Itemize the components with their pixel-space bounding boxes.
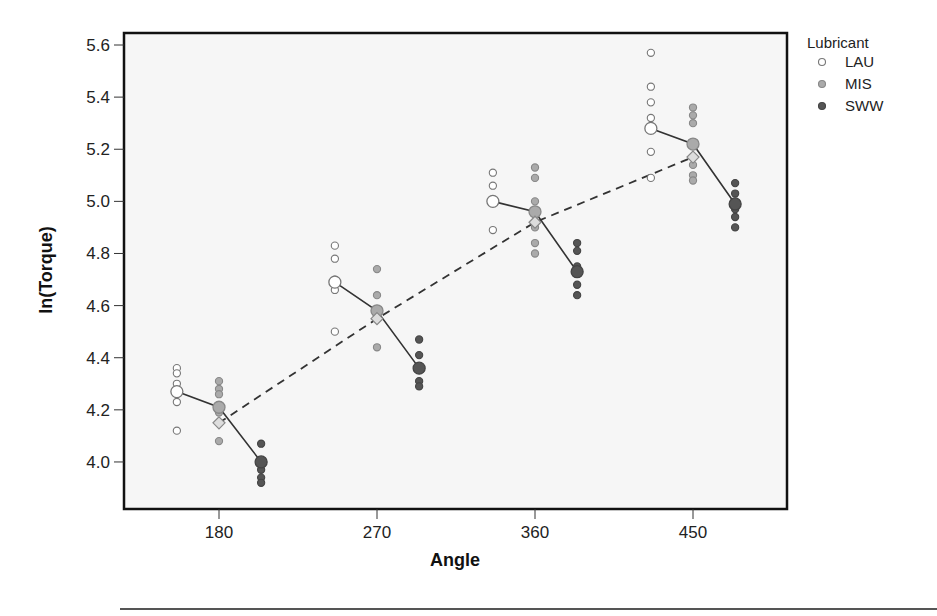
chart: 4.04.24.44.64.85.05.25.45.6 180270360450… [0, 0, 937, 616]
point-lau [173, 427, 180, 434]
point-sww [574, 239, 581, 246]
y-tick-label: 5.0 [86, 192, 110, 211]
point-sww [416, 336, 423, 343]
y-tick-label: 4.6 [86, 297, 110, 316]
mean-point-sww [413, 362, 425, 374]
mean-point-mis [213, 401, 225, 413]
point-mis [215, 438, 222, 445]
point-mis [531, 198, 538, 205]
mean-point-lau [645, 122, 657, 134]
x-tick-label: 450 [679, 523, 707, 542]
point-mis [531, 174, 538, 181]
point-lau [647, 83, 654, 90]
point-lau [489, 169, 496, 176]
legend-marker-lau [819, 59, 826, 66]
point-sww [574, 281, 581, 288]
x-axis: 180270360450 [205, 509, 707, 542]
point-lau [647, 49, 654, 56]
mean-point-sww [571, 266, 583, 278]
mean-point-sww [255, 456, 267, 468]
point-sww [416, 383, 423, 390]
mean-point-mis [687, 138, 699, 150]
point-sww [732, 213, 739, 220]
point-lau [331, 328, 338, 335]
point-mis [373, 344, 380, 351]
point-mis [531, 239, 538, 246]
point-lau [489, 226, 496, 233]
point-lau [647, 114, 654, 121]
y-tick-label: 5.6 [86, 36, 110, 55]
point-sww [732, 180, 739, 187]
point-lau [647, 174, 654, 181]
mean-point-sww [729, 198, 741, 210]
legend-label-sww: SWW [845, 97, 884, 114]
y-axis: 4.04.24.44.64.85.05.25.45.6 [86, 36, 124, 472]
point-mis [689, 177, 696, 184]
point-mis [215, 378, 222, 385]
point-lau [647, 148, 654, 155]
point-lau [489, 182, 496, 189]
x-tick-label: 180 [205, 523, 233, 542]
y-axis-title: ln(Torque) [36, 226, 56, 314]
point-mis [531, 164, 538, 171]
point-sww [574, 292, 581, 299]
point-mis [215, 391, 222, 398]
point-sww [732, 190, 739, 197]
point-lau [173, 398, 180, 405]
point-mis [689, 112, 696, 119]
y-tick-label: 4.8 [86, 244, 110, 263]
point-sww [258, 440, 265, 447]
point-sww [416, 352, 423, 359]
point-mis [689, 120, 696, 127]
point-lau [173, 370, 180, 377]
point-sww [574, 247, 581, 254]
legend-marker-sww [819, 103, 826, 110]
legend-title: Lubricant [807, 34, 870, 51]
y-tick-label: 4.2 [86, 401, 110, 420]
legend-marker-mis [819, 81, 826, 88]
mean-point-lau [329, 276, 341, 288]
y-tick-label: 4.0 [86, 453, 110, 472]
point-mis [689, 104, 696, 111]
point-mis [531, 250, 538, 257]
x-tick-label: 360 [521, 523, 549, 542]
point-sww [258, 479, 265, 486]
x-tick-label: 270 [363, 523, 391, 542]
page-divider [120, 608, 937, 610]
y-tick-label: 5.2 [86, 140, 110, 159]
point-mis [373, 292, 380, 299]
point-lau [331, 242, 338, 249]
y-tick-label: 4.4 [86, 349, 110, 368]
point-lau [647, 99, 654, 106]
x-axis-title: Angle [430, 550, 480, 570]
point-lau [331, 255, 338, 262]
point-sww [732, 224, 739, 231]
mean-point-lau [487, 195, 499, 207]
legend: Lubricant LAUMISSWW [807, 34, 884, 114]
legend-label-lau: LAU [845, 53, 874, 70]
y-tick-label: 5.4 [86, 88, 110, 107]
legend-label-mis: MIS [845, 75, 872, 92]
point-mis [373, 266, 380, 273]
mean-point-lau [171, 386, 183, 398]
